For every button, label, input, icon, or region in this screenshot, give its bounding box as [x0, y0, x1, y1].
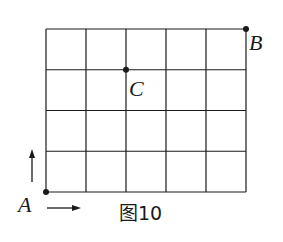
point-c [123, 67, 129, 73]
point-a [43, 189, 49, 195]
arrow-right-icon [47, 205, 81, 211]
point-label-c: C [129, 76, 144, 101]
grid-lines [46, 29, 246, 192]
figure-caption: 图10 [119, 202, 162, 224]
point-label-b: B [249, 30, 262, 55]
point-label-a: A [16, 192, 32, 217]
grid-diagram: A C B 图10 [0, 0, 283, 242]
arrow-up-icon [29, 149, 35, 182]
